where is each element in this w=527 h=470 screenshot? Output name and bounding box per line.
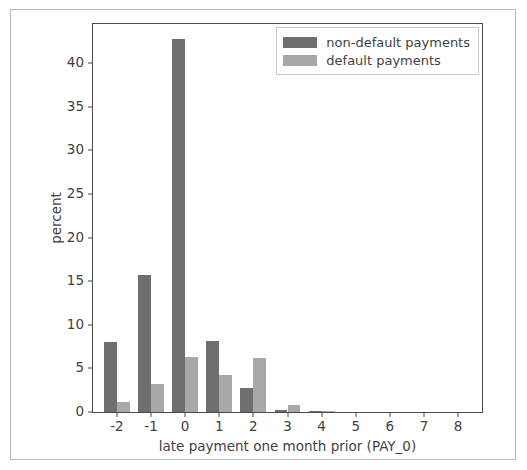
y-tick-mark: [88, 194, 93, 195]
x-tick-label: 3: [283, 420, 292, 434]
legend-label-nondefault: non-default payments: [326, 36, 470, 49]
x-tick-mark: [321, 412, 322, 417]
bar: [206, 341, 219, 413]
bar: [117, 402, 130, 412]
legend-swatch-nondefault: [283, 37, 317, 48]
x-tick-mark: [287, 412, 288, 417]
x-tick-mark: [151, 412, 152, 417]
plot-axes: 0510152025303540 percent -2-1012345678 l…: [92, 23, 483, 413]
x-tick-mark: [185, 412, 186, 417]
bar: [322, 411, 335, 412]
y-tick-label: 15: [67, 274, 84, 288]
bars-container: [93, 24, 482, 412]
y-axis-label: percent: [48, 192, 64, 244]
x-tick-label: 5: [351, 420, 360, 434]
x-tick-label: 2: [249, 420, 258, 434]
y-tick-mark: [88, 281, 93, 282]
y-tick-mark: [88, 237, 93, 238]
x-tick-mark: [458, 412, 459, 417]
x-tick-label: -2: [110, 420, 123, 434]
x-tick-label: -1: [144, 420, 157, 434]
x-tick-label: 7: [420, 420, 429, 434]
x-tick-label: 8: [454, 420, 463, 434]
legend-item: default payments: [283, 51, 470, 69]
y-tick-mark: [88, 150, 93, 151]
x-tick-label: 1: [215, 420, 224, 434]
x-tick-label: 0: [181, 420, 190, 434]
chart-legend: non-default payments default payments: [276, 27, 479, 75]
figure-frame: 0510152025303540 percent -2-1012345678 l…: [10, 9, 516, 460]
bar: [104, 342, 117, 412]
bar: [240, 388, 253, 412]
x-axis-label: late payment one month prior (PAY_0): [159, 438, 416, 454]
x-tick-label: 4: [317, 420, 326, 434]
x-tick-mark: [219, 412, 220, 417]
y-tick-label: 5: [75, 362, 84, 376]
y-tick-label: 40: [67, 56, 84, 70]
x-tick-mark: [389, 412, 390, 417]
y-tick-mark: [88, 412, 93, 413]
y-tick-label: 35: [67, 100, 84, 114]
bar: [288, 405, 301, 412]
x-tick-mark: [116, 412, 117, 417]
y-tick-label: 25: [67, 187, 84, 201]
bar: [151, 384, 164, 412]
legend-label-default: default payments: [326, 54, 441, 67]
x-tick-mark: [253, 412, 254, 417]
bar: [309, 411, 322, 412]
x-tick-mark: [423, 412, 424, 417]
y-tick-mark: [88, 368, 93, 369]
y-tick-mark: [88, 324, 93, 325]
x-tick-mark: [355, 412, 356, 417]
y-tick-label: 30: [67, 144, 84, 158]
y-tick-label: 0: [75, 405, 84, 419]
x-tick-label: 6: [386, 420, 395, 434]
y-tick-mark: [88, 63, 93, 64]
y-tick-label: 10: [67, 318, 84, 332]
bar: [172, 39, 185, 412]
bar: [138, 275, 151, 412]
bar: [253, 358, 266, 412]
bar: [275, 410, 288, 412]
bar: [185, 357, 198, 412]
bar: [219, 375, 232, 412]
legend-swatch-default: [283, 55, 317, 66]
y-tick-mark: [88, 106, 93, 107]
y-tick-label: 20: [67, 231, 84, 245]
legend-item: non-default payments: [283, 33, 470, 51]
